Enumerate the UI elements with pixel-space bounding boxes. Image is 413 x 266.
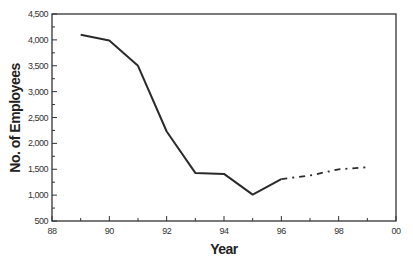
x-tick-label: 98 xyxy=(334,226,344,236)
y-tick-label: 2,500 xyxy=(28,113,49,123)
plot-frame xyxy=(52,14,396,221)
y-tick-label: 3,500 xyxy=(28,61,49,71)
y-tick-label: 500 xyxy=(34,216,48,226)
x-tick-label: 88 xyxy=(47,226,57,236)
x-tick-label: 92 xyxy=(162,226,172,236)
x-axis-title: Year xyxy=(210,241,239,257)
y-tick-label: 1,000 xyxy=(28,190,49,200)
plot-border xyxy=(52,14,396,221)
data-series xyxy=(81,35,368,195)
x-tick-label: 00 xyxy=(391,226,401,236)
y-tick-label: 4,500 xyxy=(28,9,49,19)
employees-line-chart: 5001,0001,5002,0002,5003,0003,5004,0004,… xyxy=(0,0,413,266)
series-actual-line xyxy=(81,35,282,195)
x-tick-label: 96 xyxy=(277,226,287,236)
y-axis-title: No. of Employees xyxy=(7,63,23,173)
y-tick-label: 1,500 xyxy=(28,164,49,174)
series-projected-line xyxy=(281,167,367,179)
x-tick-label: 94 xyxy=(219,226,229,236)
y-tick-label: 2,000 xyxy=(28,138,49,148)
x-axis: 88909294969800 xyxy=(47,216,401,236)
y-tick-label: 4,000 xyxy=(28,35,49,45)
y-tick-label: 3,000 xyxy=(28,87,49,97)
x-tick-label: 90 xyxy=(105,226,115,236)
